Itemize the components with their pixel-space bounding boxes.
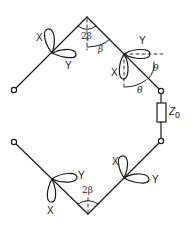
top-angle-label: 2β bbox=[81, 32, 92, 41]
upper-right-y-label: Y bbox=[139, 36, 146, 46]
beta-label: β bbox=[98, 45, 103, 54]
lower-right-y-label: Y bbox=[152, 175, 159, 185]
resistor-z0 bbox=[157, 103, 166, 122]
diagram-graphics bbox=[0, 0, 193, 225]
impedance-subscript: 0 bbox=[175, 110, 180, 120]
upper-left-y-label: Y bbox=[65, 61, 72, 71]
lower-left-y-label: Y bbox=[78, 171, 85, 181]
lower-left-x-label: X bbox=[47, 206, 54, 216]
theta-upper-label: θ bbox=[153, 64, 158, 73]
right-top-terminal bbox=[158, 88, 163, 93]
diagram-canvas: X Y 2β β Y X θ θ Z0 Y X 2β X Y bbox=[0, 0, 193, 225]
lower-left-terminal bbox=[11, 139, 16, 144]
theta-lower-arc bbox=[125, 80, 146, 87]
upper-right-x-label: X bbox=[111, 68, 118, 78]
upper-left-x-label: X bbox=[36, 33, 43, 43]
lower-left-orbital bbox=[47, 173, 77, 202]
right-bottom-terminal bbox=[158, 138, 163, 143]
impedance-label: Z0 bbox=[169, 107, 180, 117]
lower-right-x-label: X bbox=[112, 157, 119, 167]
theta-lower-label: θ bbox=[137, 86, 142, 95]
upper-left-terminal bbox=[11, 87, 16, 92]
bottom-angle-label: 2β bbox=[82, 186, 93, 195]
